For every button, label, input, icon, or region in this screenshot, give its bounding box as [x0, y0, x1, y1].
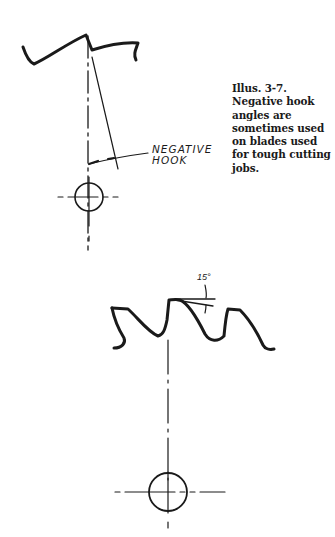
bottom-blade-left-hook	[112, 308, 125, 348]
caption-line: Negative hook	[232, 95, 335, 108]
caption-line: on blades used	[232, 135, 335, 148]
arrowhead-right	[108, 158, 114, 159]
angle-label: 15°	[197, 272, 211, 282]
caption-line: sometimes used	[232, 122, 335, 135]
bottom-blade-outline	[112, 300, 274, 350]
hook-angle-arrow	[89, 153, 148, 164]
top-blade-outline	[23, 35, 138, 64]
angle-arrow-top	[205, 285, 206, 298]
bottom-angle-line	[175, 300, 213, 306]
figure-caption: Illus. 3-7. Negative hook angles are som…	[232, 82, 335, 175]
caption-line: angles are	[232, 109, 335, 122]
top-diagram	[23, 35, 148, 250]
top-hook-line	[92, 57, 118, 169]
caption-line: jobs.	[232, 162, 335, 175]
angle-arrow-bottom	[205, 305, 206, 313]
caption-line: Illus. 3-7.	[232, 82, 335, 95]
arrowhead-left	[89, 161, 98, 164]
illustration	[0, 0, 335, 537]
negative-hook-label: NEGATIVE HOOK	[152, 144, 212, 166]
bottom-diagram	[112, 285, 274, 528]
caption-line: for tough cutting	[232, 148, 335, 161]
label-line: HOOK	[152, 155, 212, 166]
